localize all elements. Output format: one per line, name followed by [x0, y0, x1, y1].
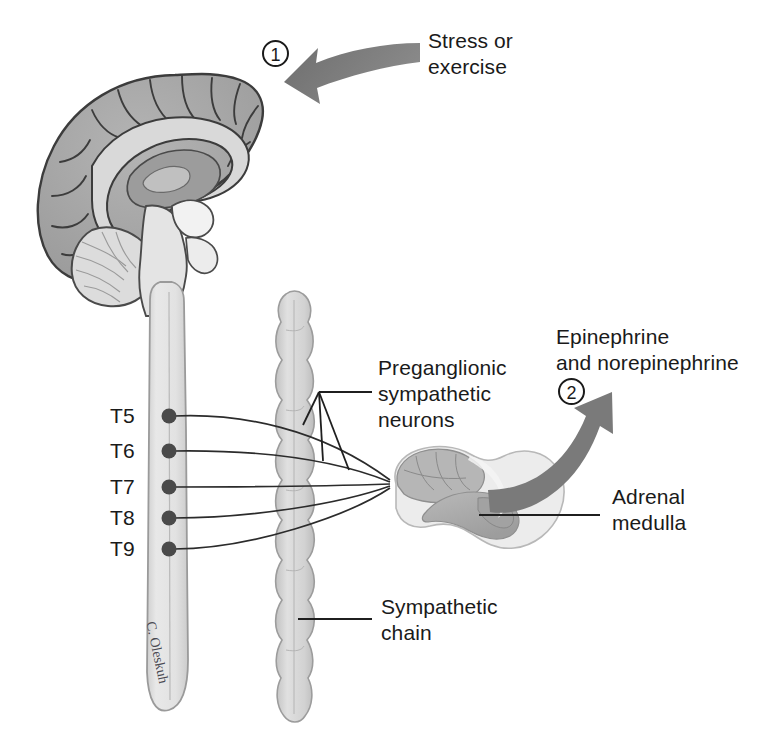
dot-t5 — [162, 409, 177, 424]
epinephrine-label: Epinephrineand norepinephrine — [556, 324, 739, 376]
sympathetic-chain-label: Sympatheticchain — [381, 594, 498, 646]
epinephrine-label-line2: and norepinephrine — [556, 351, 739, 374]
arrow-1-shape — [284, 43, 420, 104]
brain-midsagittal — [38, 74, 263, 316]
stress-arrow — [284, 43, 420, 104]
spinal-level-label-t6: T6 — [110, 440, 135, 462]
adrenal-medulla-label-line1: Adrenal — [612, 485, 685, 508]
stress-label: Stress orexercise — [428, 28, 513, 80]
dot-t6 — [162, 444, 177, 459]
preganglionic-label: Preganglionicsympatheticneurons — [378, 355, 507, 433]
spinal-level-label-t9: T9 — [110, 538, 135, 560]
adrenal-medulla-label-line2: medulla — [612, 511, 686, 534]
sympathetic-chain-label-line1: Sympathetic — [381, 595, 498, 618]
spinal-level-label-t7: T7 — [110, 476, 135, 498]
epinephrine-label-line1: Epinephrine — [556, 325, 669, 348]
stress-label-line2: exercise — [428, 55, 507, 78]
preganglionic-label-line1: Preganglionic — [378, 356, 507, 379]
pons — [186, 237, 217, 273]
arrow-2-shape — [488, 392, 613, 513]
spinal-level-label-t8: T8 — [110, 507, 135, 529]
dot-t9 — [162, 542, 177, 557]
step-1-marker: 1 — [262, 40, 289, 67]
dot-t8 — [162, 511, 177, 526]
dot-t7 — [162, 480, 177, 495]
stress-label-line1: Stress or — [428, 29, 513, 52]
preganglionic-label-line3: neurons — [378, 408, 455, 431]
step-2-marker: 2 — [558, 378, 585, 405]
epinephrine-arrow — [488, 392, 613, 513]
spinal-level-label-t5: T5 — [110, 405, 135, 427]
sympathetic-chain-label-line2: chain — [381, 621, 432, 644]
preganglionic-label-line2: sympathetic — [378, 382, 491, 405]
adrenal-medulla-label: Adrenalmedulla — [612, 484, 686, 536]
